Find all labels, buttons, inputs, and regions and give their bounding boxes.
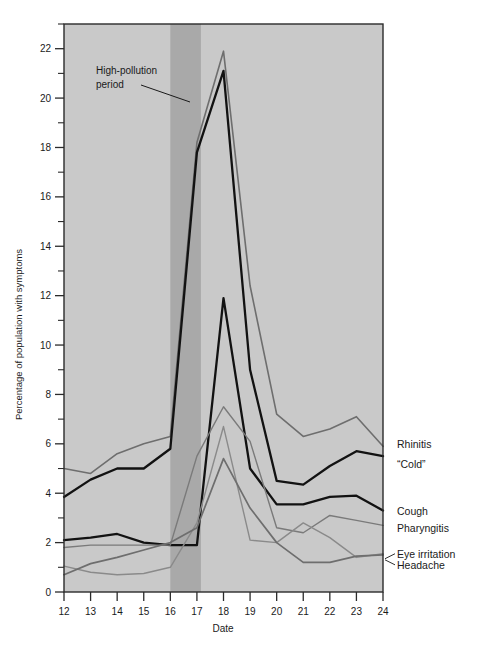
annotation-line-1: High-pollution	[96, 65, 157, 76]
x-tick-label: 24	[377, 606, 389, 617]
series-label-cough: Cough	[397, 505, 428, 517]
x-tick-label: 22	[324, 606, 336, 617]
x-tick-label: 16	[165, 606, 177, 617]
x-tick-label: 12	[58, 606, 70, 617]
x-tick-label: 15	[138, 606, 150, 617]
x-tick-label: 19	[245, 606, 257, 617]
series-label-pharyngitis: Pharyngitis	[397, 522, 449, 534]
chart-figure: 0246810121416182022 12131415161718192021…	[0, 0, 480, 648]
x-tick-label: 17	[191, 606, 203, 617]
y-tick-label: 16	[40, 191, 52, 202]
y-tick-label: 8	[45, 389, 51, 400]
x-tick-label: 23	[351, 606, 363, 617]
x-tick-label: 21	[298, 606, 310, 617]
y-tick-label: 22	[40, 43, 52, 54]
y-tick-label: 10	[40, 340, 52, 351]
y-tick-label: 0	[45, 587, 51, 598]
series-label-cold: “Cold”	[397, 458, 426, 470]
y-tick-label: 4	[45, 488, 51, 499]
y-tick-label: 20	[40, 93, 52, 104]
symptoms-line-chart: 0246810121416182022 12131415161718192021…	[0, 0, 480, 648]
x-tick-label: 13	[85, 606, 97, 617]
x-tick-label: 14	[112, 606, 124, 617]
y-tick-label: 12	[40, 290, 52, 301]
series-label-headache: Headache	[397, 559, 445, 571]
x-tick-label: 20	[271, 606, 283, 617]
y-tick-label: 2	[45, 537, 51, 548]
y-tick-label: 18	[40, 142, 52, 153]
y-tick-label: 6	[45, 438, 51, 449]
x-axis-title: Date	[212, 623, 234, 634]
x-tick-label: 18	[218, 606, 230, 617]
y-tick-label: 14	[40, 241, 52, 252]
high-pollution-band	[170, 24, 201, 592]
series-label-rhinitis: Rhinitis	[397, 438, 431, 450]
y-axis-title: Percentage of population with symptoms	[13, 249, 24, 420]
annotation-line-2: period	[96, 79, 124, 90]
